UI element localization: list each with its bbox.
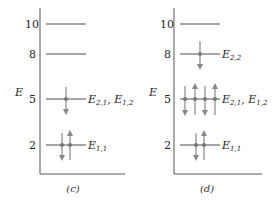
panel-d: E 10 8 5 2 (148, 8, 268, 194)
tick-8: 8 (164, 48, 171, 61)
tick-10: 10 (25, 18, 39, 31)
tick-2: 2 (164, 139, 171, 152)
electron-spin-down-icon (194, 133, 198, 158)
axis-label-e: E (148, 86, 157, 99)
state-label-e22: E2,2 (221, 48, 242, 62)
electron-spin-down-icon (198, 41, 202, 67)
electron-spin-up-icon (202, 133, 206, 160)
tick-8: 8 (29, 48, 36, 61)
energy-level-diagram: E 10 8 5 2 E2,1, E1,2 E1,1 (c) (0, 0, 277, 202)
electron-spin-down-icon (183, 86, 187, 113)
electron-spin-up-icon (68, 133, 72, 160)
state-label-e21-e12: E2,1, E1,2 (87, 93, 134, 107)
electron-spin-up-icon (193, 86, 197, 115)
tick-2: 2 (29, 139, 36, 152)
electron-spin-down-icon (60, 133, 64, 158)
state-label-e11: E1,1 (221, 139, 241, 153)
tick-10: 10 (160, 18, 174, 31)
electron-spin-up-icon (213, 86, 217, 115)
tick-5: 5 (164, 93, 171, 106)
tick-5: 5 (29, 93, 36, 106)
panel-caption-d: (d) (200, 183, 214, 194)
state-label-e21-e12: E2,1, E1,2 (221, 93, 268, 107)
electron-spin-down-icon (64, 87, 68, 112)
axis-label-e: E (14, 86, 23, 99)
panel-c: E 10 8 5 2 E2,1, E1,2 E1,1 (c) (14, 8, 134, 194)
panel-caption-c: (c) (66, 183, 80, 194)
state-label-e11: E1,1 (87, 139, 107, 153)
electron-spin-down-icon (203, 86, 207, 113)
